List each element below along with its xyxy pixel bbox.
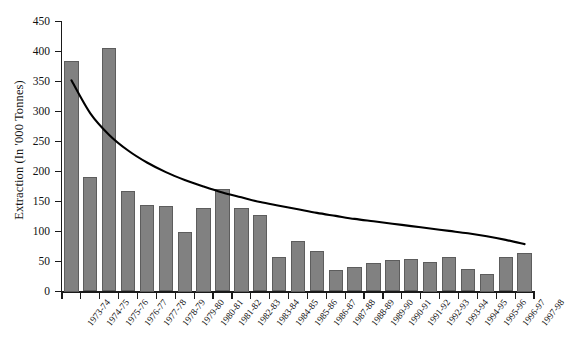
x-tick <box>156 292 157 299</box>
x-tick <box>231 292 232 299</box>
bar <box>102 48 116 292</box>
x-tick <box>175 292 176 299</box>
bar <box>461 269 475 292</box>
y-tick <box>55 81 62 82</box>
y-tick-label: 400 <box>10 46 50 58</box>
x-tick <box>420 292 421 299</box>
x-tick <box>212 292 213 299</box>
y-tick-label: 450 <box>10 16 50 28</box>
x-tick <box>533 292 534 299</box>
x-tick <box>477 292 478 299</box>
bar <box>215 189 229 292</box>
bar <box>423 262 437 292</box>
bar <box>347 267 361 292</box>
x-tick <box>496 292 497 299</box>
x-tick <box>458 292 459 299</box>
bar <box>291 241 305 292</box>
bar <box>196 208 210 292</box>
y-tick <box>55 141 62 142</box>
bar <box>272 257 286 291</box>
x-tick <box>194 292 195 299</box>
bar <box>366 263 380 291</box>
bar <box>385 260 399 292</box>
x-tick <box>61 292 62 299</box>
bar <box>310 251 324 291</box>
x-tick <box>515 292 516 299</box>
y-tick-label: 50 <box>10 256 50 268</box>
bar <box>480 274 494 292</box>
bar <box>64 61 78 292</box>
y-tick-label: 250 <box>10 136 50 148</box>
x-tick <box>118 292 119 299</box>
y-tick <box>55 171 62 172</box>
x-tick <box>439 292 440 299</box>
x-tick <box>401 292 402 299</box>
x-tick <box>307 292 308 299</box>
y-tick <box>55 231 62 232</box>
bar <box>159 206 173 292</box>
y-tick <box>55 201 62 202</box>
bar <box>442 257 456 291</box>
y-tick <box>55 21 62 22</box>
x-tick <box>99 292 100 299</box>
x-tick <box>269 292 270 299</box>
bar <box>121 191 135 292</box>
y-tick-label: 350 <box>10 76 50 88</box>
y-tick-label: 0 <box>10 286 50 298</box>
bar <box>404 259 418 291</box>
bar <box>178 232 192 292</box>
bar <box>234 208 248 292</box>
x-tick <box>250 292 251 299</box>
bar <box>83 177 97 292</box>
y-tick <box>55 261 62 262</box>
x-tick <box>363 292 364 299</box>
x-tick <box>137 292 138 299</box>
y-tick-label: 100 <box>10 226 50 238</box>
x-tick <box>288 292 289 299</box>
y-tick-label: 300 <box>10 106 50 118</box>
bar <box>329 270 343 292</box>
y-axis-line <box>61 22 62 293</box>
y-tick <box>55 51 62 52</box>
x-tick <box>80 292 81 299</box>
bar <box>517 253 531 292</box>
y-tick <box>55 111 62 112</box>
x-tick <box>345 292 346 299</box>
bar <box>253 215 267 291</box>
x-axis-line <box>61 291 535 292</box>
bar <box>499 257 513 291</box>
x-tick <box>382 292 383 299</box>
bar <box>140 205 154 292</box>
x-tick <box>326 292 327 299</box>
y-tick-label: 150 <box>10 196 50 208</box>
y-tick-label: 200 <box>10 166 50 178</box>
